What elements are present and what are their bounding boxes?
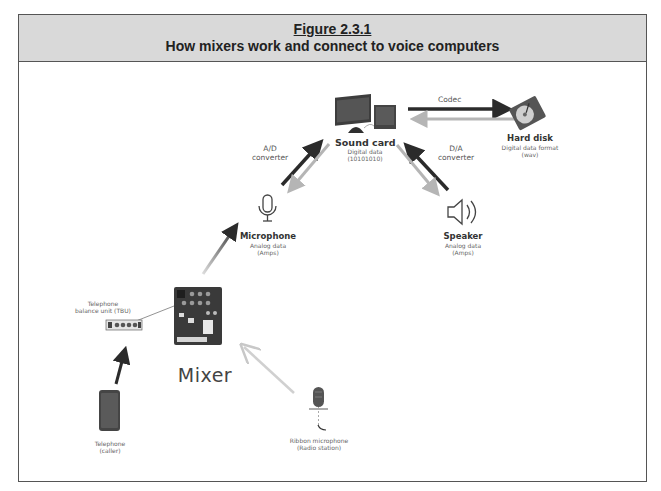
hard-disk-icon (509, 95, 547, 130)
hard-disk-desc1: Digital data format (498, 144, 562, 151)
tbu-name2: balance unit (TBU) (70, 307, 136, 314)
microphone-desc1: Analog data (238, 242, 298, 249)
mixer-icon (174, 287, 222, 345)
node-microphone: Microphone Analog data (Amps) (238, 231, 298, 256)
ad-line1: A/D (250, 144, 290, 153)
tbu-icon (106, 320, 142, 330)
node-sound-card: Sound card Digital data (10101010) (335, 137, 395, 162)
tbu-name1: Telephone (70, 300, 136, 307)
telephone-icon (99, 390, 120, 431)
diagram-arrows (0, 0, 661, 491)
node-ribbon-microphone: Ribbon microphone (Radio station) (288, 437, 350, 451)
speaker-desc1: Analog data (433, 242, 493, 249)
node-tbu: Telephone balance unit (TBU) (70, 300, 136, 314)
mixer-name: Mixer (178, 364, 232, 386)
da-line2: converter (436, 153, 476, 162)
codec-text: Codec (438, 95, 461, 104)
arrow-soundcard-to-microphone (290, 144, 329, 190)
sound-card-icon (335, 94, 396, 133)
node-mixer: Mixer (170, 364, 240, 386)
telephone-name1: Telephone (85, 440, 135, 447)
speaker-name: Speaker (433, 231, 493, 242)
ribbon-mic-name1: Ribbon microphone (288, 437, 350, 444)
hard-disk-name: Hard disk (498, 133, 562, 144)
node-telephone: Telephone (caller) (85, 440, 135, 454)
sound-card-desc1: Digital data (335, 148, 395, 155)
arrow-ribbonmic-to-mixer (244, 347, 294, 393)
microphone-desc2: (Amps) (238, 249, 298, 256)
microphone-name: Microphone (238, 231, 298, 242)
ribbon-mic-name2: (Radio station) (288, 444, 350, 451)
ribbon-microphone-icon (309, 387, 328, 430)
arrow-mixer-to-microphone (203, 226, 236, 274)
ad-line2: converter (250, 153, 290, 162)
node-speaker: Speaker Analog data (Amps) (433, 231, 493, 256)
label-da-converter: D/A converter (436, 144, 476, 162)
label-ad-converter: A/D converter (250, 144, 290, 162)
microphone-icon (259, 195, 276, 221)
arrow-soundcard-to-speaker (397, 145, 437, 193)
node-hard-disk: Hard disk Digital data format (wav) (498, 133, 562, 158)
da-line1: D/A (436, 144, 476, 153)
telephone-name2: (caller) (85, 447, 135, 454)
hard-disk-desc2: (wav) (498, 151, 562, 158)
sound-card-desc2: (10101010) (335, 155, 395, 162)
arrow-telephone-to-tbu (116, 350, 125, 384)
label-codec: Codec (438, 95, 461, 104)
speaker-desc2: (Amps) (433, 249, 493, 256)
speaker-icon (448, 200, 476, 224)
sound-card-name: Sound card (335, 137, 395, 148)
